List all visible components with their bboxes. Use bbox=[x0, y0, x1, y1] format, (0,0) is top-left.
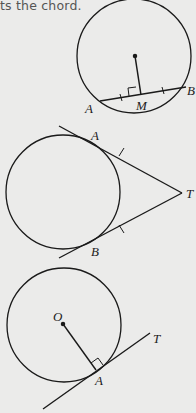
tangent-line bbox=[43, 333, 150, 409]
label-T-2: T bbox=[186, 186, 194, 201]
figure-two-tangents bbox=[6, 126, 182, 258]
tick-mark bbox=[119, 148, 124, 156]
label-A-2: A bbox=[90, 128, 99, 143]
label-A-3: A bbox=[94, 373, 103, 388]
label-M: M bbox=[135, 98, 148, 113]
right-angle-marker-3 bbox=[91, 358, 103, 365]
geometry-figures: A M B A B T O A T bbox=[0, 0, 196, 413]
label-B-2: B bbox=[91, 244, 99, 259]
tick-mark bbox=[119, 225, 124, 233]
figure-tangent-radius bbox=[7, 268, 150, 409]
label-A-1: A bbox=[84, 101, 93, 116]
perpendicular-segment bbox=[135, 56, 141, 95]
label-T-3: T bbox=[153, 331, 161, 346]
figure-chord-bisector bbox=[77, 0, 191, 113]
tangent-TB bbox=[59, 193, 182, 258]
center-dot-1 bbox=[133, 54, 136, 57]
label-B-1: B bbox=[187, 83, 195, 98]
tangent-TA bbox=[59, 126, 182, 193]
label-O: O bbox=[53, 309, 63, 324]
radius-OA bbox=[63, 324, 96, 370]
circle-2 bbox=[6, 135, 120, 249]
